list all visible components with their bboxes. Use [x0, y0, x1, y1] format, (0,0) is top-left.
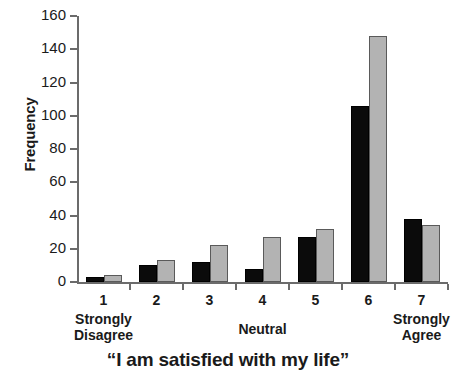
y-axis-tick-label: 100: [20, 106, 66, 123]
bar-series-dark-6: [351, 106, 369, 282]
y-axis-tick-label: 140: [20, 39, 66, 56]
bar-series-light-4: [263, 237, 281, 282]
y-axis-tick-label: 40: [20, 206, 66, 223]
plot-area: 020406080100120140160: [77, 16, 448, 284]
bar-series-light-6: [369, 36, 387, 282]
x-axis-title: “I am satisfied with my life”: [0, 349, 456, 371]
x-axis-category-label-4: 4: [243, 292, 283, 308]
x-axis-tick: [288, 284, 290, 290]
x-axis-tick: [235, 284, 237, 290]
x-axis-tick: [341, 284, 343, 290]
y-axis-tick: 120: [70, 82, 77, 84]
bar-series-dark-2: [139, 265, 157, 282]
x-axis-tick: [394, 284, 396, 290]
y-axis-tick: 80: [70, 148, 77, 150]
bar-series-light-2: [157, 260, 175, 282]
bar-series-light-3: [210, 245, 228, 282]
x-axis-category-label-3: 3: [190, 292, 230, 308]
y-axis-tick: 0: [70, 281, 77, 283]
y-axis-tick: 20: [70, 248, 77, 250]
bar-series-dark-1: [86, 277, 104, 282]
bar-series-dark-5: [298, 237, 316, 282]
x-axis-category-label-1: 1: [84, 292, 124, 308]
x-axis-anchor-label-7: StronglyAgree: [362, 311, 456, 343]
y-axis-tick-label: 60: [20, 172, 66, 189]
anchor-label-line: Strongly: [44, 311, 164, 327]
bar-series-dark-4: [245, 269, 263, 282]
x-axis-category-label-2: 2: [137, 292, 177, 308]
x-axis-category-label-5: 5: [296, 292, 336, 308]
y-axis-tick: 140: [70, 48, 77, 50]
bar-chart-figure: Frequency 020406080100120140160 “I am sa…: [0, 0, 456, 390]
y-axis-tick: 60: [70, 181, 77, 183]
y-axis-tick: 40: [70, 215, 77, 217]
bar-series-dark-7: [404, 219, 422, 282]
x-axis-line: [77, 282, 448, 284]
x-axis-tick: [447, 284, 449, 290]
y-axis-tick-label: 20: [20, 239, 66, 256]
bar-series-dark-3: [192, 262, 210, 282]
y-axis-tick-label: 0: [20, 272, 66, 289]
y-axis-tick-label: 120: [20, 73, 66, 90]
x-axis-category-label-7: 7: [402, 292, 442, 308]
y-axis-tick: 160: [70, 15, 77, 17]
x-axis-tick: [182, 284, 184, 290]
y-axis-line: [77, 16, 79, 284]
x-axis-anchor-label-1: StronglyDisagree: [44, 311, 164, 343]
anchor-label-line: Strongly: [362, 311, 456, 327]
x-axis-anchor-label-4: Neutral: [203, 321, 323, 337]
anchor-label-line: Neutral: [203, 321, 323, 337]
x-axis-tick: [129, 284, 131, 290]
y-axis-tick-label: 160: [20, 6, 66, 23]
bar-series-light-1: [104, 275, 122, 282]
anchor-label-line: Disagree: [44, 327, 164, 343]
y-axis-tick-label: 80: [20, 139, 66, 156]
x-axis-category-label-6: 6: [349, 292, 389, 308]
y-axis-tick: 100: [70, 115, 77, 117]
bar-series-light-5: [316, 229, 334, 282]
bar-series-light-7: [422, 225, 440, 282]
anchor-label-line: Agree: [362, 327, 456, 343]
